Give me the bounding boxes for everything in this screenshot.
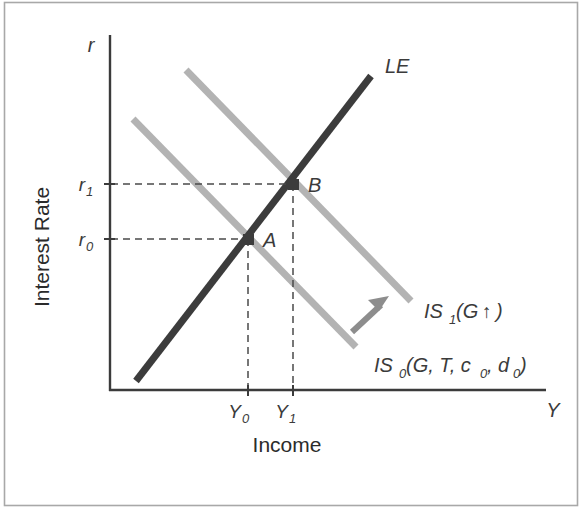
x-axis-title: Income (253, 433, 322, 456)
y-tick-label-r1-sub: 1 (86, 184, 93, 199)
x-tick-label-y0-sub: 0 (242, 411, 250, 426)
is0-curve-label-args2: , d (487, 354, 510, 376)
y-axis-title: Interest Rate (30, 187, 53, 307)
x-tick-label-y1-sub: 1 (289, 411, 296, 426)
figure-frame (5, 3, 578, 506)
x-axis-symbol: Y (546, 399, 561, 421)
x-tick-label-y0-main: Y (228, 401, 242, 422)
is1-curve-label-main: IS (424, 300, 444, 322)
point-label-a: A (262, 229, 276, 251)
x-tick-label-y1-main: Y (275, 401, 289, 422)
is0-curve-label-close: ) (518, 354, 527, 376)
is-le-diagram: r Y r 1 r 0 Y 0 Y 1 Interest Rate Income… (0, 0, 582, 509)
point-marker-a (243, 234, 254, 245)
is0-curve-label-args: (G, T, c (406, 354, 471, 376)
point-marker-b (288, 179, 299, 190)
is0-curve-label-main: IS (374, 354, 394, 376)
is1-curve-label-close: ) (494, 300, 503, 322)
economics-diagram-canvas: r Y r 1 r 0 Y 0 Y 1 Interest Rate Income… (0, 0, 582, 509)
point-label-b: B (308, 174, 321, 196)
y-tick-label-r1-main: r (79, 174, 86, 195)
le-curve-label: LE (385, 55, 410, 77)
y-tick-label-r0-main: r (79, 229, 86, 250)
is1-curve-label-arrow: ↑ (482, 301, 492, 322)
is1-curve-label-args: (G (456, 300, 478, 322)
y-tick-label-r0-sub: 0 (86, 239, 94, 254)
